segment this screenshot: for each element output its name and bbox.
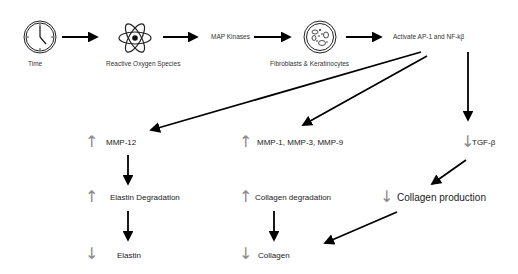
label-collagen-production: Collagen production xyxy=(397,193,486,203)
label-time: Time xyxy=(28,61,42,68)
up-arrow-icon: ↑ xyxy=(85,189,98,205)
down-arrow-icon: ↓ xyxy=(380,189,393,205)
arrow-collagen-production-to-collagen xyxy=(325,212,397,243)
label-fibroblasts: Fibroblasts & Keratinocytes xyxy=(270,61,349,68)
label-elastin-degradation: Elastin Degradation xyxy=(110,194,180,202)
down-arrow-icon: ↓ xyxy=(239,246,252,262)
down-arrow-icon: ↓ xyxy=(85,246,98,262)
arrow-tgf-to-collagen-production xyxy=(432,160,466,184)
up-arrow-icon: ↑ xyxy=(85,134,98,150)
label-collagen: Collagen xyxy=(258,252,290,260)
label-ros: Reactive Oxygen Species xyxy=(106,61,180,68)
up-arrow-icon: ↑ xyxy=(239,134,252,150)
label-elastin: Elastin xyxy=(117,252,141,260)
atom-icon xyxy=(119,21,151,55)
petri-dish-icon xyxy=(304,21,336,53)
label-mmp-1-3-9: MMP-1, MMP-3, MMP-9 xyxy=(257,139,343,147)
label-mmp12: MMP-12 xyxy=(106,139,136,147)
clock-icon xyxy=(24,21,56,53)
label-map-kinases: MAP Kinases xyxy=(211,34,250,41)
label-tgf-beta: TGF-β xyxy=(472,139,495,147)
up-arrow-icon: ↑ xyxy=(239,189,252,205)
label-collagen-degradation: Collagen degradation xyxy=(255,194,331,202)
label-ap1: Activate AP-1 and NF-kβ xyxy=(393,34,464,41)
diagram-canvas xyxy=(0,0,518,274)
